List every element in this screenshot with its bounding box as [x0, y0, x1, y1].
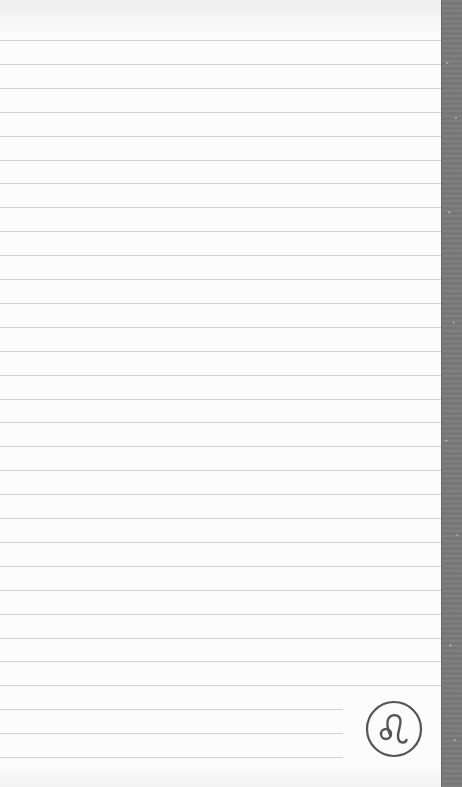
leo-zodiac-icon	[365, 700, 423, 758]
ruled-line	[0, 518, 441, 519]
ruled-line	[0, 88, 441, 89]
ruled-line	[0, 757, 343, 758]
lined-paper	[0, 0, 441, 787]
ruled-line	[0, 112, 441, 113]
ruled-line	[0, 255, 441, 256]
ruled-line	[0, 303, 441, 304]
ruled-line	[0, 709, 343, 710]
ruled-line	[0, 542, 441, 543]
ruled-line	[0, 446, 441, 447]
ruled-line	[0, 470, 441, 471]
ruled-line	[0, 375, 441, 376]
ruled-line	[0, 494, 441, 495]
ruled-line	[0, 566, 441, 567]
ruled-line	[0, 614, 441, 615]
ruled-line	[0, 351, 441, 352]
leo-symbol-svg	[365, 700, 423, 758]
ruled-line	[0, 231, 441, 232]
ruled-line	[0, 422, 441, 423]
ruled-line	[0, 661, 441, 662]
ruled-line	[0, 327, 441, 328]
ruled-line	[0, 399, 441, 400]
ruled-line	[0, 40, 441, 41]
ruled-line	[0, 638, 441, 639]
ruled-line	[0, 207, 441, 208]
ruled-line	[0, 183, 441, 184]
ruled-line	[0, 136, 441, 137]
ruled-line	[0, 279, 441, 280]
binding-spine	[441, 0, 462, 787]
notebook-page	[0, 0, 462, 787]
ruled-line	[0, 64, 441, 65]
ruled-line	[0, 160, 441, 161]
ruled-line	[0, 590, 441, 591]
ruled-line	[0, 733, 343, 734]
ruled-line	[0, 685, 441, 686]
